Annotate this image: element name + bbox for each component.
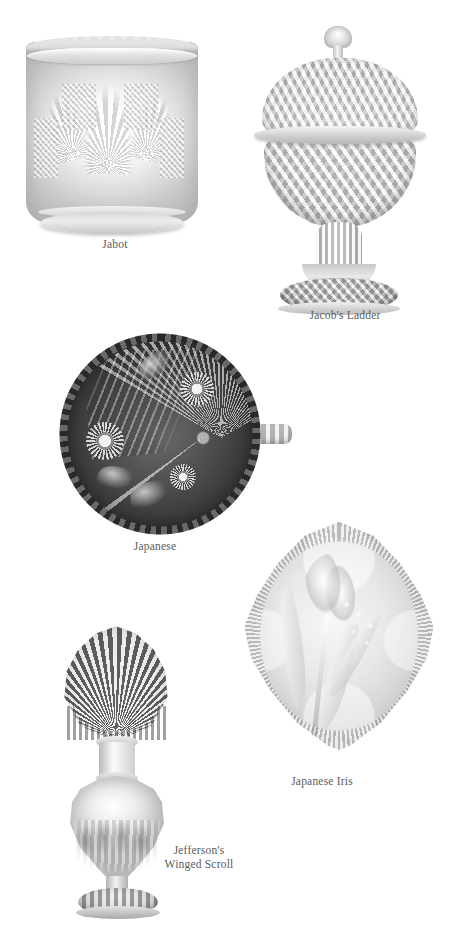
photo-jeffersons-winged-scroll-bottle — [52, 624, 182, 920]
jacobs-lid-rim — [254, 126, 426, 144]
caption-japanese: Japanese — [95, 540, 215, 554]
jacobs-lid — [262, 58, 418, 136]
jacobs-bowl — [264, 136, 416, 228]
jabot-diamond-cut — [124, 84, 158, 130]
caption-jabot: Jabot — [55, 238, 175, 252]
jabot-diamond-cut — [160, 118, 184, 178]
caption-jeffersons-winged-scroll: Jefferson's Winged Scroll — [139, 844, 259, 871]
figure-japanese-iris — [240, 518, 440, 758]
jabot-foot — [40, 212, 184, 234]
figure-jacobs-ladder — [250, 26, 430, 316]
jabot-diamond-cut — [62, 84, 96, 130]
photo-japanese-iris-dish — [240, 518, 440, 758]
figure-jabot — [18, 22, 208, 252]
jefferson-stopper-rim — [64, 706, 168, 740]
jabot-diamond-cut — [34, 118, 58, 178]
photo-jacobs-ladder-compote — [250, 26, 430, 316]
jabot-rim-band — [27, 48, 197, 64]
caption-jacobs-ladder: Jacob's Ladder — [284, 309, 406, 323]
figure-jeffersons-winged-scroll — [52, 624, 182, 920]
caption-japanese-iris: Japanese Iris — [262, 775, 382, 789]
photo-jabot-vase — [18, 22, 208, 236]
figure-japanese — [56, 332, 296, 542]
photo-japanese-plate — [56, 332, 296, 542]
plate-page: Jabot Jacob's Ladder — [0, 0, 454, 939]
jefferson-foot-rim — [76, 906, 160, 919]
japanese-beaded-rim — [58, 332, 262, 536]
